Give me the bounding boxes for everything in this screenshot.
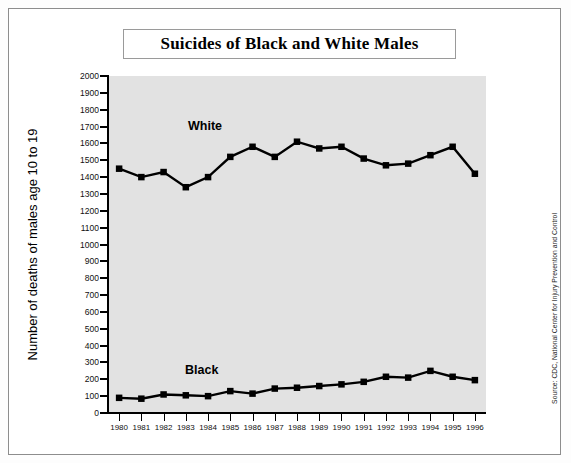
data-point-marker bbox=[205, 393, 212, 400]
series-lines bbox=[108, 76, 486, 413]
y-tick-label: 2000 bbox=[80, 71, 99, 81]
y-tick-label: 600 bbox=[85, 307, 99, 317]
x-tick bbox=[319, 414, 320, 421]
data-point-marker bbox=[116, 395, 123, 402]
data-point-marker bbox=[249, 390, 256, 397]
y-tick bbox=[100, 311, 108, 313]
y-tick-label: 700 bbox=[85, 290, 99, 300]
y-tick bbox=[100, 142, 108, 144]
data-point-marker bbox=[316, 383, 323, 390]
data-point-marker bbox=[338, 381, 345, 388]
y-axis-title: Number of deaths of males age 10 to 19 bbox=[22, 76, 44, 413]
y-tick bbox=[100, 244, 108, 246]
y-tick-label: 1900 bbox=[80, 88, 99, 98]
y-tick-label: 1500 bbox=[80, 155, 99, 165]
x-tick bbox=[230, 414, 231, 421]
data-point-marker bbox=[272, 154, 279, 161]
x-tick-label: 1990 bbox=[333, 423, 351, 432]
y-tick-label: 1300 bbox=[80, 189, 99, 199]
x-tick-label: 1980 bbox=[110, 423, 128, 432]
y-tick-label: 100 bbox=[85, 391, 99, 401]
y-tick-label: 300 bbox=[85, 357, 99, 367]
data-point-marker bbox=[427, 152, 434, 159]
data-point-marker bbox=[449, 374, 456, 381]
data-point-marker bbox=[360, 155, 367, 162]
data-point-marker bbox=[272, 385, 279, 392]
x-tick bbox=[208, 414, 209, 421]
y-tick-label: 1700 bbox=[80, 122, 99, 132]
data-point-marker bbox=[116, 165, 123, 172]
x-tick bbox=[186, 414, 187, 421]
data-point-marker bbox=[316, 145, 323, 152]
y-tick-label: 1600 bbox=[80, 138, 99, 148]
y-tick bbox=[100, 294, 108, 296]
x-tick bbox=[341, 414, 342, 421]
x-tick-label: 1987 bbox=[266, 423, 284, 432]
y-tick bbox=[100, 361, 108, 363]
data-point-marker bbox=[472, 170, 479, 177]
source-note: Source: CDC, National Center for Injury … bbox=[547, 188, 561, 428]
data-point-marker bbox=[160, 169, 167, 176]
y-tick bbox=[100, 126, 108, 128]
markers-series-white bbox=[116, 138, 478, 190]
x-tick-label: 1982 bbox=[155, 423, 173, 432]
x-tick-label: 1996 bbox=[466, 423, 484, 432]
y-tick-label: 400 bbox=[85, 341, 99, 351]
y-tick bbox=[100, 92, 108, 94]
x-tick-label: 1989 bbox=[310, 423, 328, 432]
x-tick bbox=[275, 414, 276, 421]
x-tick bbox=[430, 414, 431, 421]
y-tick bbox=[100, 328, 108, 330]
y-tick bbox=[100, 176, 108, 178]
y-tick bbox=[100, 193, 108, 195]
x-tick-label: 1988 bbox=[288, 423, 306, 432]
y-tick-label: 1800 bbox=[80, 105, 99, 115]
line-series-white bbox=[119, 142, 475, 188]
data-point-marker bbox=[449, 144, 456, 151]
x-tick bbox=[386, 414, 387, 421]
data-point-marker bbox=[405, 374, 412, 381]
chart-title-box: Suicides of Black and White Males bbox=[123, 29, 456, 59]
y-tick-label: 1100 bbox=[81, 223, 99, 233]
data-point-marker bbox=[294, 384, 301, 391]
y-tick bbox=[100, 75, 108, 77]
y-tick bbox=[100, 395, 108, 397]
data-point-marker bbox=[249, 144, 256, 151]
x-tick bbox=[164, 414, 165, 421]
data-point-marker bbox=[160, 391, 167, 398]
x-tick-label: 1986 bbox=[244, 423, 262, 432]
x-tick bbox=[453, 414, 454, 421]
y-tick bbox=[100, 345, 108, 347]
data-point-marker bbox=[338, 144, 345, 151]
y-axis-title-label: Number of deaths of males age 10 to 19 bbox=[26, 129, 41, 361]
y-tick-label: 1400 bbox=[80, 172, 99, 182]
x-tick-label: 1993 bbox=[399, 423, 417, 432]
y-tick-label: 1200 bbox=[80, 206, 99, 216]
x-tick bbox=[408, 414, 409, 421]
data-point-marker bbox=[383, 162, 390, 169]
data-point-marker bbox=[360, 379, 367, 386]
x-tick bbox=[141, 414, 142, 421]
x-tick bbox=[297, 414, 298, 421]
data-point-marker bbox=[138, 395, 145, 402]
y-tick bbox=[100, 109, 108, 111]
data-point-marker bbox=[472, 377, 479, 384]
y-tick-label: 1000 bbox=[80, 240, 99, 250]
data-point-marker bbox=[227, 388, 234, 395]
data-point-marker bbox=[227, 154, 234, 161]
data-point-marker bbox=[294, 138, 301, 145]
y-tick-label: 0 bbox=[94, 408, 99, 418]
y-tick bbox=[100, 412, 108, 414]
series-label-black: Black bbox=[185, 363, 218, 377]
x-tick-label: 1995 bbox=[444, 423, 462, 432]
x-tick-label: 1983 bbox=[177, 423, 195, 432]
y-tick-label: 900 bbox=[85, 256, 99, 266]
data-point-marker bbox=[205, 174, 212, 181]
x-tick-label: 1992 bbox=[377, 423, 395, 432]
y-tick-label: 200 bbox=[85, 374, 99, 384]
x-tick bbox=[364, 414, 365, 421]
data-point-marker bbox=[405, 160, 412, 167]
y-tick bbox=[100, 260, 108, 262]
x-tick bbox=[119, 414, 120, 421]
chart-figure: Suicides of Black and White Males Number… bbox=[0, 0, 571, 463]
